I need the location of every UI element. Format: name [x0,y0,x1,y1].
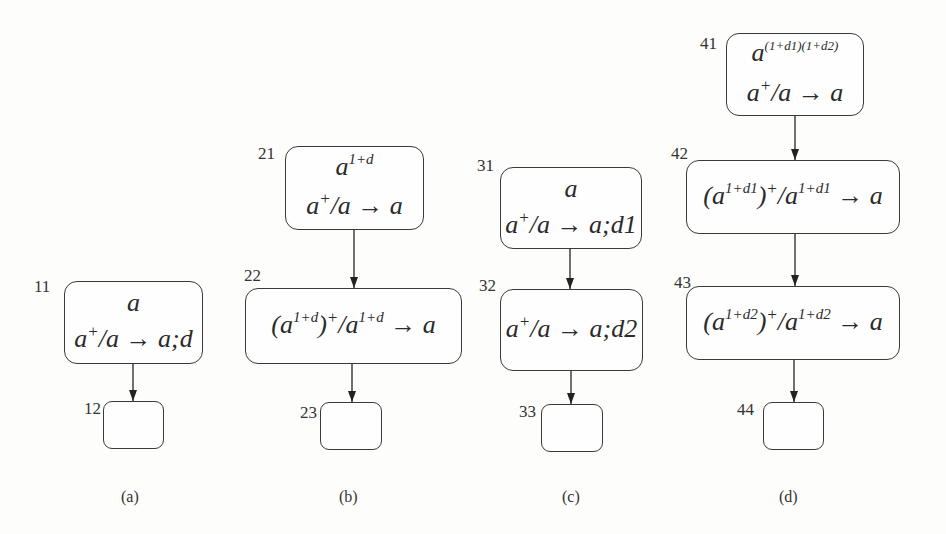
expr-text: → a [384,310,436,339]
node-22: (a1+d)+/a1+d → a [245,288,462,364]
node-42-line-1: (a1+d1)+/a1+d1 → a [703,178,882,217]
expr-text: /a → a [771,78,843,107]
node-33 [541,404,603,452]
arrowhead-icon [567,393,575,404]
expr-sup: 1+d [348,151,373,167]
node-11: a a+/a → a;d [64,281,203,364]
node-label-12: 12 [84,400,101,417]
expr-sup: 1+d1 [798,180,831,196]
caption-a: (a) [121,489,139,505]
expr-text: a [752,38,765,67]
arrowhead-icon [566,278,574,289]
node-41: a(1+d1)(1+d2) a+/a → a [726,33,864,116]
expr-text: (a [703,181,725,210]
expr-text: a [565,174,578,203]
node-44 [763,402,824,450]
expr-text: /a → a [331,191,403,220]
node-label-42: 42 [671,145,688,162]
node-43: (a1+d2)+/a1+d2 → a [686,286,900,360]
expr-text: ) [318,310,327,339]
expr-text: /a → a;d [99,324,193,353]
expr-sup: + [319,189,330,208]
node-31-line-1: a [565,171,578,207]
node-21: a1+d a+/a → a [285,146,424,230]
node-42: (a1+d1)+/a1+d1 → a [686,160,900,234]
expr-text: /a [778,181,798,210]
expr-text: (a [271,310,293,339]
node-31-line-2: a+/a → a;d1 [505,207,636,246]
arrowhead-icon [790,391,798,402]
expr-text: (a [703,307,725,336]
node-32: a+/a → a;d2 [500,289,643,371]
expr-text: a [306,191,319,220]
expr-sup: + [327,308,338,327]
node-21-line-2: a+/a → a [306,188,403,227]
arrowhead-icon [791,275,799,286]
caption-c: (c) [562,489,580,505]
expr-text: ) [758,307,767,336]
expr-text: → a [831,181,883,210]
expr-text: /a [338,310,358,339]
expr-text: a [747,78,760,107]
expr-sup: + [518,208,529,227]
expr-text: a [74,324,87,353]
expr-sup: 1+d1 [725,180,758,196]
expr-sup: 1+d [359,309,384,325]
expr-text: a [506,314,519,343]
expr-text: a [335,152,348,181]
node-31: a a+/a → a;d1 [500,167,642,249]
node-label-11: 11 [34,278,50,295]
node-label-44: 44 [737,401,754,418]
node-label-23: 23 [300,404,317,421]
expr-sup: + [766,305,777,324]
expr-text: /a → a;d2 [530,314,637,343]
expr-text: → a [831,307,883,336]
node-11-line-2: a+/a → a;d [74,321,192,360]
node-label-31: 31 [477,157,494,174]
expr-sup: + [760,76,771,95]
arrowhead-icon [350,277,358,288]
expr-sup: + [519,312,530,331]
expr-sup: (1+d1)(1+d2) [765,38,839,53]
expr-sup: + [766,179,777,198]
expr-sup: + [87,322,98,341]
node-label-43: 43 [674,274,691,291]
node-21-line-1: a1+d [335,149,373,188]
caption-b: (b) [339,489,358,505]
arrowhead-icon [348,391,356,402]
node-label-21: 21 [258,145,275,162]
node-32-line-1: a+/a → a;d2 [506,311,637,350]
arrowhead-icon [129,390,137,401]
expr-sup: 1+d2 [725,306,758,322]
expr-sup: 1+d [293,309,318,325]
expr-text: /a [778,307,798,336]
expr-text: ) [758,181,767,210]
expr-sup: 1+d2 [798,306,831,322]
arrow-lines [133,116,795,404]
node-22-line-1: (a1+d)+/a1+d → a [271,307,435,346]
node-label-32: 32 [479,277,496,294]
expr-text: a [505,210,518,239]
expr-text: /a → a;d1 [530,210,637,239]
node-41-line-2: a+/a → a [747,75,844,114]
node-43-line-1: (a1+d2)+/a1+d2 → a [703,304,882,343]
node-label-22: 22 [244,267,261,284]
node-41-line-1: a(1+d1)(1+d2) [752,35,839,75]
node-label-41: 41 [700,35,717,52]
expr-text: a [127,288,140,317]
node-label-33: 33 [519,403,536,420]
node-12 [103,401,164,449]
caption-d: (d) [779,489,798,505]
node-23 [320,402,382,450]
node-11-line-1: a [127,285,140,321]
arrowhead-icon [791,149,799,160]
